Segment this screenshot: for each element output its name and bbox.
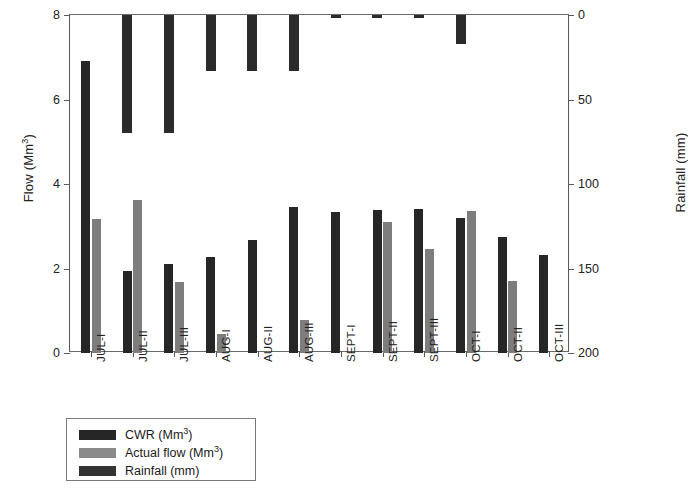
legend-label-cwr-tail: ) xyxy=(188,429,192,443)
y-tick-right xyxy=(568,269,574,270)
bar-cwr xyxy=(123,271,132,353)
x-axis-label: JUL-II xyxy=(137,330,149,362)
bar-rainfall xyxy=(206,15,216,71)
legend-label-cwr: CWR (Mm3) xyxy=(125,426,193,442)
bar-cwr xyxy=(498,237,507,353)
x-axis-label: AUG-I xyxy=(220,329,232,362)
y-tick-label-right: 100 xyxy=(578,177,599,191)
legend-swatch-actual-flow xyxy=(79,448,116,458)
y-tick-right xyxy=(568,100,574,101)
bar-cwr xyxy=(206,257,215,353)
bar-cwr xyxy=(331,212,340,353)
y-tick-left xyxy=(64,184,70,185)
plot-area: 02468 050100150200 xyxy=(69,14,569,352)
x-axis-label: JUL-III xyxy=(178,327,190,362)
legend-item-cwr: CWR (Mm3) xyxy=(79,426,255,443)
bar-cwr xyxy=(164,264,173,353)
bar-rainfall xyxy=(331,15,341,18)
y-tick-label-left: 6 xyxy=(53,93,60,107)
x-axis-label: SEPT-II xyxy=(387,321,399,362)
x-tick xyxy=(549,351,550,357)
y-tick-right xyxy=(568,353,574,354)
y-axis-left-title: Flow (Mm3) xyxy=(20,88,36,248)
y-tick-label-right: 50 xyxy=(578,93,592,107)
y-tick-left xyxy=(64,15,70,16)
bar-cwr xyxy=(373,210,382,353)
legend-swatch-cwr xyxy=(79,430,116,440)
y-tick-label-right: 0 xyxy=(578,8,585,22)
chart-legend: CWR (Mm3) Actual flow (Mm3) Rainfall (mm… xyxy=(66,418,256,481)
y-tick-label-left: 4 xyxy=(53,177,60,191)
x-tick xyxy=(258,351,259,357)
y-axis-right-title: Rainfall (mm) xyxy=(673,93,688,253)
y-tick-label-left: 2 xyxy=(53,262,60,276)
bar-rainfall xyxy=(247,15,257,71)
bar-rainfall xyxy=(414,15,424,18)
legend-label-rainfall-main: Rainfall (mm) xyxy=(125,464,199,478)
y-tick-left xyxy=(64,353,70,354)
x-axis-label: OCT-III xyxy=(553,324,565,362)
x-axis-label: SEPT-I xyxy=(345,324,357,362)
legend-label-actual-flow-main: Actual flow (Mm xyxy=(125,447,214,461)
y-tick-label-right: 200 xyxy=(578,346,599,360)
legend-label-cwr-main: CWR (Mm xyxy=(125,429,183,443)
y-tick-label-right: 150 xyxy=(578,262,599,276)
bar-cwr xyxy=(414,209,423,353)
bar-rainfall xyxy=(289,15,299,71)
y-tick-label-left: 8 xyxy=(53,8,60,22)
y-axis-left-title-superscript: 3 xyxy=(20,138,30,143)
legend-swatch-rainfall xyxy=(79,466,116,476)
legend-label-actual-flow: Actual flow (Mm3) xyxy=(125,444,223,460)
x-axis-label: OCT-I xyxy=(470,330,482,362)
y-tick-right xyxy=(568,184,574,185)
y-tick-right xyxy=(568,15,574,16)
bar-cwr xyxy=(456,218,465,353)
bar-rainfall xyxy=(372,15,382,18)
bar-cwr xyxy=(248,240,257,353)
y-tick-label-left: 0 xyxy=(53,346,60,360)
x-tick xyxy=(341,351,342,357)
legend-item-actual-flow: Actual flow (Mm3) xyxy=(79,444,255,461)
y-axis-left-title-tail: ) xyxy=(21,134,36,139)
y-axis-right-title-text: Rainfall (mm) xyxy=(673,133,688,213)
y-tick-left xyxy=(64,269,70,270)
legend-item-rainfall: Rainfall (mm) xyxy=(79,462,255,479)
legend-label-rainfall: Rainfall (mm) xyxy=(125,464,199,478)
x-axis-label: SEPT-III xyxy=(428,318,440,362)
y-axis-left-title-text: Flow (Mm xyxy=(21,144,36,203)
x-axis-label: AUG-II xyxy=(262,326,274,362)
bar-rainfall xyxy=(122,15,132,133)
legend-label-actual-flow-tail: ) xyxy=(219,447,223,461)
x-axis-label: AUG-III xyxy=(303,322,315,362)
bar-cwr xyxy=(289,207,298,353)
x-axis-label: JUL-I xyxy=(95,334,107,362)
bar-cwr xyxy=(81,61,90,353)
x-axis-label: OCT-II xyxy=(512,327,524,362)
bar-rainfall xyxy=(456,15,466,44)
y-tick-left xyxy=(64,100,70,101)
bar-cwr xyxy=(539,255,548,353)
bar-rainfall xyxy=(164,15,174,133)
